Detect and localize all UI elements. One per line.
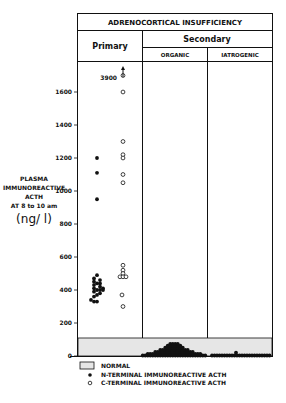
filled-data-point — [95, 273, 99, 277]
svg-text:AT 8 to 10 am: AT 8 to 10 am — [11, 202, 57, 209]
filled-data-point — [95, 197, 99, 201]
y-tick-label: 600 — [59, 253, 72, 260]
open-data-point — [120, 293, 124, 297]
filled-data-point — [234, 351, 238, 355]
iatrogenic-header: IATROGENIC — [221, 52, 259, 58]
secondary-header: Secondary — [183, 35, 231, 44]
legend-c-terminal-label: C-TERMINAL IMMUNOREACTIVE ACTH — [101, 379, 226, 386]
offscale-annotation: 3900 — [100, 66, 125, 81]
filled-data-point — [92, 283, 96, 287]
filled-circle-icon — [88, 373, 92, 377]
filled-data-point — [98, 278, 102, 282]
open-data-point — [121, 156, 125, 160]
y-tick-label: 400 — [59, 286, 72, 293]
y-axis-label: PLASMA IMMUNOREACTIVE ACTH AT 8 to 10 am… — [3, 175, 65, 226]
legend-n-terminal-label: N-TERMINAL IMMUNOREACTIVE ACTH — [101, 371, 226, 378]
filled-data-point — [92, 277, 96, 281]
open-data-point — [121, 90, 125, 94]
filled-data-point — [95, 171, 99, 175]
svg-text:PLASMA: PLASMA — [20, 175, 48, 182]
filled-data-point — [191, 350, 195, 354]
y-axis-ticks: 02004006008001000120014001600 — [55, 88, 78, 359]
y-tick-label: 1200 — [55, 154, 72, 161]
filled-data-point — [176, 342, 180, 346]
y-tick-label: 1600 — [55, 88, 72, 95]
filled-data-point — [203, 354, 207, 358]
svg-text:ACTH: ACTH — [25, 193, 43, 200]
organic-header: ORGANIC — [161, 52, 189, 58]
filled-data-point — [92, 295, 96, 299]
filled-data-point — [198, 352, 202, 356]
legend-normal-label: NORMAL — [101, 362, 130, 369]
svg-text:(ng/ l): (ng/ l) — [16, 212, 52, 226]
y-tick-label: 200 — [59, 319, 72, 326]
legend-normal-swatch — [80, 362, 94, 369]
filled-data-point — [101, 288, 105, 292]
svg-text:3900: 3900 — [100, 74, 117, 81]
open-data-point — [121, 305, 125, 309]
open-data-point — [121, 140, 125, 144]
y-tick-label: 1400 — [55, 121, 72, 128]
primary-header: Primary — [92, 42, 128, 51]
filled-data-point — [268, 354, 272, 358]
svg-text:IMMUNOREACTIVE: IMMUNOREACTIVE — [3, 184, 65, 191]
open-data-point — [121, 173, 125, 177]
open-circle-icon — [88, 381, 92, 385]
acth-chart: ADRENOCORTICAL INSUFFICIENCY Primary Sec… — [0, 0, 286, 403]
filled-data-point — [95, 156, 99, 160]
open-data-point — [121, 181, 125, 185]
open-data-point — [121, 263, 125, 267]
filled-data-point — [95, 300, 99, 304]
chart-header — [78, 14, 273, 357]
open-data-point — [124, 275, 128, 279]
filled-data-point — [98, 282, 102, 286]
legend: NORMAL N-TERMINAL IMMUNOREACTIVE ACTH C-… — [80, 362, 226, 386]
filled-data-point — [186, 348, 190, 352]
filled-data-point — [92, 290, 96, 294]
y-tick-label: 800 — [59, 220, 72, 227]
title-header: ADRENOCORTICAL INSUFFICIENCY — [108, 19, 243, 27]
data-points — [89, 74, 271, 358]
y-tick-label: 0 — [68, 352, 72, 359]
